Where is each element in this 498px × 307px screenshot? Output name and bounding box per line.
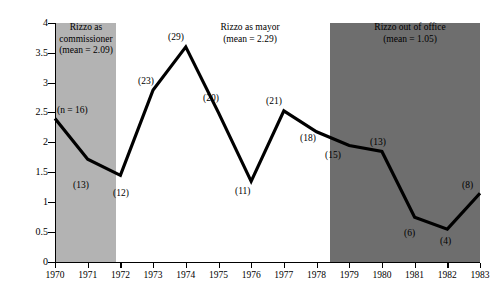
point-label-1978: (18) — [300, 133, 316, 143]
y-tick-label-6: 3 — [18, 77, 48, 88]
point-label-1980: (13) — [370, 137, 386, 147]
y-tick-label-8: 4 — [18, 17, 48, 28]
y-tick-label-0: 0 — [18, 256, 48, 267]
y-tick-6 — [48, 83, 55, 84]
band-label-mayor: Rizzo as mayor (mean = 2.29) — [190, 22, 310, 45]
x-tick-1983 — [480, 263, 481, 268]
line-chart: Rizzo as commissioner (mean = 2.09) Rizz… — [0, 0, 498, 307]
point-label-1975: (20) — [203, 93, 219, 103]
x-tick-1976 — [251, 263, 252, 268]
y-tick-3 — [48, 172, 55, 173]
x-tick-1977 — [284, 263, 285, 268]
y-axis — [55, 23, 56, 263]
point-label-1981: (6) — [404, 228, 415, 238]
point-label-1977: (21) — [266, 96, 282, 106]
y-tick-label-2: 1 — [18, 196, 48, 207]
band-label-commissioner: Rizzo as commissioner (mean = 2.09) — [52, 22, 120, 57]
x-tick-1980 — [382, 263, 383, 268]
y-tick-label-5: 2.5 — [18, 106, 48, 117]
y-tick-label-7: 3.5 — [18, 47, 48, 58]
x-tick-1974 — [186, 263, 187, 268]
point-label-1974: (29) — [168, 32, 184, 42]
point-label-1971: (13) — [73, 180, 89, 190]
y-tick-label-3: 1.5 — [18, 166, 48, 177]
x-tick-label-1983: 1983 — [460, 270, 498, 280]
x-tick-1979 — [349, 263, 350, 268]
x-tick-1982 — [447, 263, 448, 268]
y-tick-label-4: 2 — [18, 136, 48, 147]
point-label-1973: (23) — [138, 76, 154, 86]
y-tick-0 — [48, 262, 55, 263]
point-label-1982: (4) — [440, 236, 451, 246]
x-tick-1978 — [317, 263, 318, 268]
y-tick-4 — [48, 142, 55, 143]
y-tick-label-1: 0.5 — [18, 226, 48, 237]
band-mayor — [116, 23, 330, 263]
x-axis — [55, 262, 480, 263]
y-tick-2 — [48, 202, 55, 203]
point-label-1970: (n = 16) — [57, 105, 88, 115]
point-label-1983: (8) — [462, 180, 473, 190]
x-tick-1970 — [55, 263, 56, 268]
y-tick-8 — [48, 23, 55, 24]
y-tick-1 — [48, 232, 55, 233]
point-label-1979: (15) — [325, 150, 341, 160]
band-out-of-office — [330, 23, 480, 263]
y-tick-5 — [48, 112, 55, 113]
x-tick-1973 — [153, 263, 154, 268]
x-tick-1971 — [88, 263, 89, 268]
band-commissioner — [55, 23, 116, 263]
x-tick-1975 — [219, 263, 220, 268]
point-label-1976: (11) — [235, 186, 250, 196]
x-tick-1972 — [120, 263, 121, 268]
plot-area — [55, 23, 480, 263]
point-label-1972: (12) — [113, 188, 129, 198]
y-tick-7 — [48, 53, 55, 54]
x-tick-1981 — [415, 263, 416, 268]
band-label-out-of-office: Rizzo out of office (mean = 1.05) — [340, 22, 480, 45]
